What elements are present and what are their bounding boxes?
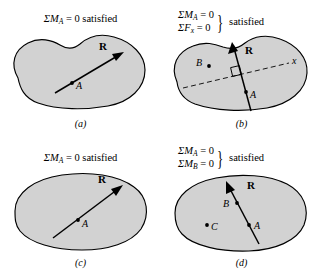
panel-a: ΣMA = 0 satisfied A R (a) <box>0 0 161 138</box>
panel-d-point-A-label: A <box>253 220 261 231</box>
panel-c-resultant-label: R <box>98 173 107 185</box>
panel-d-point-C-dot <box>205 223 209 227</box>
panel-c-point-A-dot <box>76 218 80 222</box>
panel-d-label: (d) <box>161 257 322 268</box>
panel-c: ΣMA = 0 satisfied A R (c) <box>0 139 161 277</box>
panel-a-resultant-label: R <box>99 40 108 52</box>
panel-c-body <box>15 174 146 251</box>
panel-b-point-B-label: B <box>196 57 202 68</box>
panel-b-point-A-dot <box>244 90 248 94</box>
panel-a-body <box>14 35 145 108</box>
panel-c-label: (c) <box>0 257 161 268</box>
panel-d: ΣMA = 0 ΣMB = 0 } satisfied A B C R (d) <box>161 139 322 277</box>
panel-b-resultant-label: R <box>245 44 254 56</box>
panel-d-point-B-dot <box>235 201 239 205</box>
panel-d-body <box>175 175 306 251</box>
panel-b: ΣMA = 0 ΣFx = 0 } satisfied A B x R (b) <box>161 0 322 138</box>
panel-a-label: (a) <box>0 118 161 129</box>
panel-d-point-C-label: C <box>211 221 218 232</box>
panel-a-point-A-label: A <box>75 80 83 91</box>
panel-b-point-A-label: A <box>249 89 257 100</box>
panel-c-point-A-label: A <box>81 218 89 229</box>
panel-a-point-A-dot <box>70 81 74 85</box>
panel-b-axis-label: x <box>291 55 297 66</box>
panel-b-point-B-dot <box>207 64 211 68</box>
statics-resultant-figure: ΣMA = 0 satisfied A R (a) ΣMA = 0 ΣFx = … <box>0 0 322 277</box>
panel-d-resultant-label: R <box>247 179 256 191</box>
panel-b-label: (b) <box>161 118 322 129</box>
panel-d-point-B-label: B <box>223 198 229 209</box>
panel-d-point-A-dot <box>247 223 251 227</box>
